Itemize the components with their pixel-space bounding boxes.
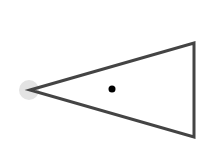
center-dot: [109, 86, 116, 93]
diagram-canvas: [0, 0, 220, 156]
